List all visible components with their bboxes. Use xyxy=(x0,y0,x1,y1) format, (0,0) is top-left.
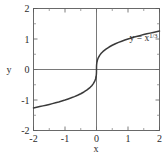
y-tick-label: -1 xyxy=(21,95,29,106)
x-axis-title: x xyxy=(94,143,99,154)
y-axis-tick-labels: -2-1012 xyxy=(21,3,29,136)
curve-equation-exponent: 1/3 xyxy=(149,32,157,39)
y-tick-label: -2 xyxy=(21,125,29,136)
x-tick-label: 2 xyxy=(157,133,162,144)
figure-container: -2-1012 -2-1012 x y y = x1/3 xyxy=(0,0,166,155)
y-axis-title: y xyxy=(7,64,12,75)
x-tick-label: 1 xyxy=(126,133,131,144)
curve-annotation: y = x1/3 xyxy=(130,32,158,44)
curve-equation-base: y = x xyxy=(130,33,150,43)
curve-equation-label: y = x1/3 xyxy=(130,32,158,44)
cube-root-plot: -2-1012 -2-1012 x y y = x1/3 xyxy=(0,0,166,155)
x-tick-label: -1 xyxy=(61,133,69,144)
y-tick-label: 0 xyxy=(25,64,30,75)
x-tick-label: -2 xyxy=(29,133,37,144)
y-tick-label: 1 xyxy=(25,34,30,45)
x-axis-tick-labels: -2-1012 xyxy=(29,133,162,144)
y-tick-label: 2 xyxy=(25,3,30,14)
x-tick-label: 0 xyxy=(94,133,99,144)
